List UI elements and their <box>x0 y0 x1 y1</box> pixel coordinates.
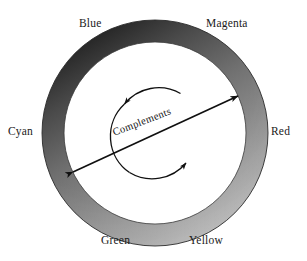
wheel-label-magenta: Magenta <box>206 18 248 30</box>
color-wheel-figure: Blue Magenta Cyan Red Green Yellow Compl… <box>0 0 307 261</box>
wheel-label-red: Red <box>271 126 290 138</box>
wheel-label-cyan: Cyan <box>8 126 33 138</box>
wheel-label-green: Green <box>101 235 130 247</box>
color-wheel-graphic <box>0 0 307 261</box>
color-wheel-ring <box>0 0 307 261</box>
wheel-label-blue: Blue <box>79 18 102 30</box>
wheel-label-yellow: Yellow <box>189 235 223 247</box>
